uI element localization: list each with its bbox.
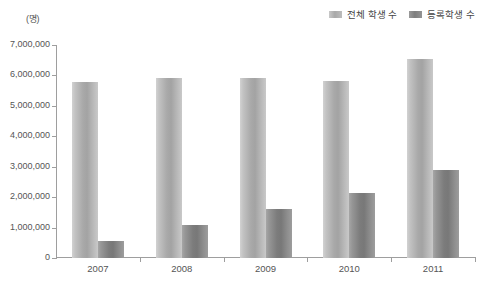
bar-2008-total	[156, 78, 182, 258]
plot-area: 01,000,0002,000,0003,000,0004,000,0005,0…	[56, 45, 475, 258]
bar-group	[156, 45, 208, 258]
legend-item-total: 전체 학생 수	[329, 10, 397, 20]
y-tick-label: 1,000,000	[10, 222, 50, 232]
y-tick-mark	[52, 197, 57, 198]
y-tick-label: 0	[45, 252, 50, 262]
x-axis-label-2008: 2008	[140, 263, 224, 274]
bar-2009-registered	[266, 209, 292, 258]
bar-2008-registered	[182, 225, 208, 258]
y-axis-unit-label: (명)	[26, 12, 39, 25]
chart-legend: 전체 학생 수 등록학생 수	[329, 10, 475, 20]
x-axis-separator-tick	[140, 257, 141, 262]
bar-group	[240, 45, 292, 258]
y-tick-label: 4,000,000	[10, 130, 50, 140]
y-tick-mark	[52, 167, 57, 168]
bar-2010-total	[323, 81, 349, 258]
y-tick-mark	[52, 228, 57, 229]
bar-2011-registered	[433, 170, 459, 258]
x-axis-separator-tick	[224, 257, 225, 262]
bar-2010-registered	[349, 193, 375, 258]
y-tick-mark	[52, 75, 57, 76]
bar-group	[407, 45, 459, 258]
bar-2007-total	[72, 82, 98, 258]
y-axis-line	[56, 45, 57, 258]
y-tick-mark	[52, 258, 57, 259]
y-tick-label: 3,000,000	[10, 161, 50, 171]
y-tick-mark	[52, 45, 57, 46]
x-axis-separator-tick	[307, 257, 308, 262]
y-tick-label: 6,000,000	[10, 69, 50, 79]
legend-item-registered: 등록학생 수	[409, 10, 475, 20]
y-tick-label: 2,000,000	[10, 191, 50, 201]
y-tick-label: 5,000,000	[10, 100, 50, 110]
x-axis-separator-tick	[475, 257, 476, 262]
legend-label-total-students: 전체 학생 수	[347, 10, 397, 20]
bar-2009-total	[240, 78, 266, 258]
bar-2007-registered	[98, 241, 124, 258]
y-tick-mark	[52, 106, 57, 107]
x-axis-label-2010: 2010	[307, 263, 391, 274]
bar-group	[323, 45, 375, 258]
x-axis-label-2011: 2011	[391, 263, 475, 274]
bar-chart: (명) 전체 학생 수 등록학생 수 01,000,0002,000,0003,…	[0, 0, 481, 293]
bar-group	[72, 45, 124, 258]
legend-swatch-registered-students	[409, 11, 422, 18]
x-axis-label-2009: 2009	[224, 263, 308, 274]
y-tick-label: 7,000,000	[10, 39, 50, 49]
x-axis-label-2007: 2007	[56, 263, 140, 274]
y-tick-mark	[52, 136, 57, 137]
bar-2011-total	[407, 59, 433, 258]
legend-label-registered-students: 등록학생 수	[427, 10, 475, 20]
x-axis-separator-tick	[391, 257, 392, 262]
legend-swatch-total-students	[329, 11, 342, 18]
